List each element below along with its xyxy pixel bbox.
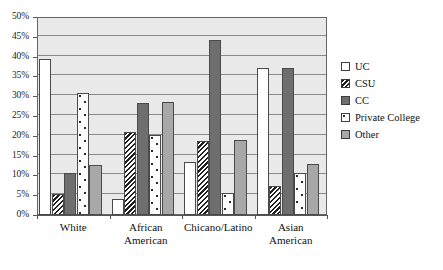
legend-swatch-icon	[341, 113, 350, 122]
bar-cc-white	[64, 173, 76, 215]
bar-uc-chicano-latino	[184, 162, 196, 215]
bar-cc-african-american	[137, 103, 149, 215]
bar-csu-chicano-latino	[197, 141, 209, 215]
bar-private-college-chicano-latino	[222, 193, 234, 215]
y-tick-label: 15%	[12, 151, 29, 161]
y-tick-label: 30%	[12, 91, 29, 101]
x-tick-mark	[37, 215, 38, 219]
y-tick-label: 5%	[17, 190, 29, 200]
bar-uc-asian-american	[257, 68, 269, 215]
legend-label: UC	[355, 61, 370, 72]
bar-chart: 0%5%10%15%20%25%30%35%40%45%50% WhiteAfr…	[0, 0, 443, 270]
bars-layer	[37, 17, 327, 215]
x-tick-mark	[327, 215, 328, 219]
y-tick-label: 40%	[12, 52, 29, 62]
x-tick-mark	[110, 215, 111, 219]
bar-other-african-american	[162, 102, 174, 215]
legend-item-private-college[interactable]: Private College	[341, 109, 441, 125]
x-category-label: Asian American	[245, 221, 338, 247]
bar-uc-white	[39, 59, 51, 215]
legend-swatch-icon	[341, 96, 350, 105]
y-tick-label: 20%	[12, 131, 29, 141]
legend-item-csu[interactable]: CSU	[341, 75, 441, 91]
legend-item-other[interactable]: Other	[341, 126, 441, 142]
legend-label: Private College	[355, 112, 420, 123]
y-tick-label: 35%	[12, 72, 29, 82]
bar-csu-white	[52, 194, 64, 215]
legend-swatch-icon	[341, 79, 350, 88]
x-axis-line	[33, 215, 327, 216]
x-tick-mark	[255, 215, 256, 219]
bar-csu-asian-american	[269, 186, 281, 215]
bar-private-college-white	[77, 93, 89, 215]
bar-private-college-asian-american	[294, 173, 306, 215]
y-tick-label: 10%	[12, 171, 29, 181]
y-tick-label: 50%	[12, 12, 29, 22]
legend-swatch-icon	[341, 130, 350, 139]
bar-private-college-african-american	[149, 135, 161, 215]
legend-item-uc[interactable]: UC	[341, 58, 441, 74]
chart-legend: UCCSUCCPrivate CollegeOther	[341, 58, 441, 143]
legend-item-cc[interactable]: CC	[341, 92, 441, 108]
legend-swatch-icon	[341, 62, 350, 71]
bar-other-white	[89, 165, 101, 215]
y-tick-label: 45%	[12, 32, 29, 42]
y-tick-label: 0%	[17, 210, 29, 220]
bar-cc-asian-american	[282, 68, 294, 215]
y-tick-label: 25%	[12, 111, 29, 121]
legend-label: Other	[355, 129, 379, 140]
x-tick-mark	[182, 215, 183, 219]
bar-cc-chicano-latino	[209, 40, 221, 215]
bar-csu-african-american	[124, 132, 136, 215]
legend-label: CC	[355, 95, 369, 106]
legend-label: CSU	[355, 78, 375, 89]
bar-other-asian-american	[307, 164, 319, 215]
y-axis: 0%5%10%15%20%25%30%35%40%45%50%	[0, 17, 33, 215]
bar-other-chicano-latino	[234, 140, 246, 215]
bar-uc-african-american	[112, 199, 124, 215]
